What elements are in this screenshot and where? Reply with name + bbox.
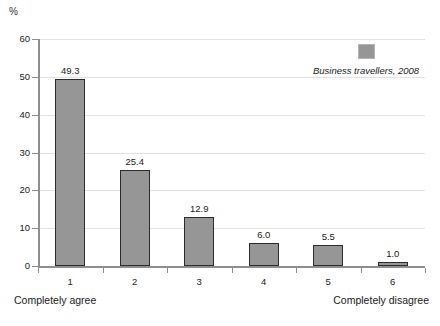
bar-value-label: 6.0: [241, 229, 287, 240]
x-axis-tick: [361, 268, 362, 273]
bar-chart: % 0102030405060149.3225.4312.946.055.561…: [0, 0, 440, 326]
y-axis-tick: [32, 39, 38, 40]
y-axis-unit-label: %: [9, 6, 18, 17]
gridline: [38, 190, 425, 191]
y-axis-tick: [32, 228, 38, 229]
gridline: [38, 153, 425, 154]
x-axis-tick: [425, 268, 426, 273]
bar: [120, 170, 150, 266]
y-axis-line: [38, 39, 40, 267]
y-axis-tick-label: 50: [6, 72, 30, 82]
bar: [55, 79, 85, 266]
x-axis-category-label: 1: [50, 276, 90, 287]
bar: [313, 245, 343, 266]
y-axis-tick: [32, 77, 38, 78]
scale-anchor-completely-disagree: Completely disagree: [333, 294, 429, 306]
y-axis-tick-label: 10: [6, 223, 30, 233]
y-axis-tick-label: 30: [6, 148, 30, 158]
y-axis-tick: [32, 153, 38, 154]
bar: [249, 243, 279, 266]
x-axis-category-label: 5: [308, 276, 348, 287]
bar-value-label: 49.3: [47, 65, 93, 76]
footnote-strip-cropped: [0, 318, 440, 326]
x-axis-tick: [167, 268, 168, 273]
y-axis-tick-label: 0: [6, 261, 30, 271]
legend-swatch-business-travellers: [358, 44, 375, 59]
bar-value-label: 5.5: [305, 231, 351, 242]
bar: [378, 262, 408, 266]
bar-value-label: 25.4: [112, 156, 158, 167]
x-axis-tick: [232, 268, 233, 273]
gridline: [38, 77, 425, 78]
scale-anchor-completely-agree: Completely agree: [14, 294, 96, 306]
x-axis-tick: [38, 268, 39, 273]
bar-value-label: 1.0: [370, 248, 416, 259]
y-axis-tick-label: 20: [6, 185, 30, 195]
x-axis-tick: [103, 268, 104, 273]
gridline: [38, 39, 425, 40]
y-axis-tick: [32, 190, 38, 191]
bar-value-label: 12.9: [176, 203, 222, 214]
y-axis-tick-label: 60: [6, 34, 30, 44]
legend: Business travellers, 2008: [300, 44, 432, 76]
x-axis-category-label: 2: [115, 276, 155, 287]
x-axis-category-label: 3: [179, 276, 219, 287]
x-axis-category-label: 6: [373, 276, 413, 287]
x-axis-tick: [296, 268, 297, 273]
bar: [184, 217, 214, 266]
y-axis-tick: [32, 266, 38, 267]
y-axis-tick: [32, 115, 38, 116]
legend-label-business-travellers: Business travellers, 2008: [300, 65, 432, 76]
gridline: [38, 115, 425, 116]
x-axis-category-label: 4: [244, 276, 284, 287]
y-axis-tick-label: 40: [6, 110, 30, 120]
gridline: [38, 228, 425, 229]
